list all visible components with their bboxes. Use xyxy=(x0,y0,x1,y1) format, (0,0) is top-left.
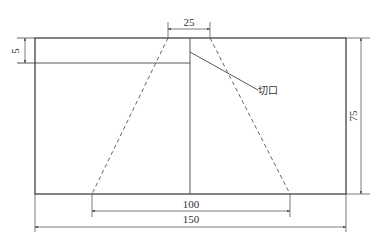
cut-label: 切口 xyxy=(258,85,278,96)
dim-label-75: 75 xyxy=(347,110,359,122)
dim-label-150: 150 xyxy=(183,213,200,225)
dim-label-100: 100 xyxy=(183,198,200,210)
main-rectangle xyxy=(35,38,346,194)
drawing-canvas: 25 5 切口 75 100 150 xyxy=(0,0,385,244)
cut-leader xyxy=(190,52,258,90)
dim-label-5: 5 xyxy=(9,48,21,54)
dashed-right xyxy=(210,38,290,194)
dashed-left xyxy=(92,38,168,194)
dim-label-25: 25 xyxy=(184,16,196,28)
